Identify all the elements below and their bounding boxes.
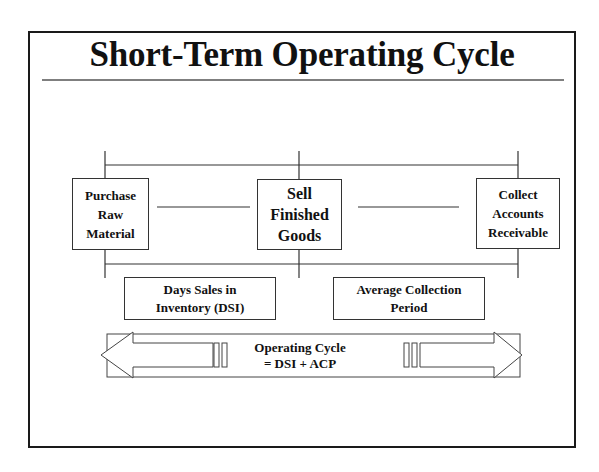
- stage-label-line: Purchase: [85, 186, 136, 205]
- right-arrow-bar-1: [404, 343, 409, 367]
- stage-label-line: Collect: [488, 185, 548, 204]
- period-label-line: Period: [357, 299, 462, 317]
- operating-cycle-label: Operating Cycle = DSI + ACP: [230, 340, 370, 372]
- stage-sell-finished-goods: Sell Finished Goods: [257, 179, 342, 250]
- operating-cycle-title: Operating Cycle: [230, 340, 370, 356]
- stage-label-line: Raw: [85, 205, 136, 224]
- right-arrow-bar-2: [412, 343, 417, 367]
- left-arrow-icon: [101, 332, 213, 378]
- period-average-collection: Average Collection Period: [333, 277, 485, 320]
- stage-label-line: Accounts: [488, 204, 548, 223]
- left-arrow-bar-2: [222, 343, 227, 367]
- period-days-sales-inventory: Days Sales in Inventory (DSI): [124, 277, 276, 320]
- operating-cycle-formula: = DSI + ACP: [230, 356, 370, 372]
- stage-label-line: Receivable: [488, 223, 548, 242]
- period-label-line: Average Collection: [357, 281, 462, 299]
- stage-label-line: Material: [85, 224, 136, 243]
- stage-label-line: Goods: [270, 225, 329, 246]
- left-arrow-bar-1: [214, 343, 219, 367]
- stage-label-line: Finished: [270, 204, 329, 225]
- stage-label-line: Sell: [270, 183, 329, 204]
- right-arrow-icon: [420, 332, 522, 378]
- stage-purchase-raw-material: Purchase Raw Material: [72, 178, 149, 250]
- period-label-line: Inventory (DSI): [156, 299, 244, 317]
- period-label-line: Days Sales in: [156, 281, 244, 299]
- stage-collect-accounts-receivable: Collect Accounts Receivable: [476, 178, 560, 249]
